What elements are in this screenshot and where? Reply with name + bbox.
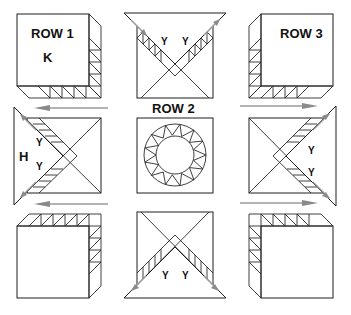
- label-h: H: [19, 149, 28, 164]
- row-1-label: ROW 1: [31, 26, 74, 41]
- quilt-assembly-diagram: ROW 1 K Y Y: [0, 0, 351, 315]
- block-bottom-center: Y Y: [124, 212, 226, 298]
- block-middle-right: Y Y: [249, 106, 336, 206]
- block-top-center: Y Y: [124, 13, 226, 98]
- label-y: Y: [161, 36, 168, 47]
- block-middle-left: Y H Y: [14, 107, 101, 205]
- block-bottom-left: [17, 214, 101, 298]
- block-center-ring: [137, 118, 213, 193]
- label-k: K: [43, 50, 53, 65]
- label-y: Y: [182, 270, 189, 281]
- block-top-left: ROW 1 K: [17, 14, 101, 98]
- label-y: Y: [162, 270, 169, 281]
- label-y: Y: [308, 167, 315, 178]
- label-y: Y: [36, 137, 43, 148]
- block-top-right: ROW 3: [249, 14, 333, 98]
- label-y: Y: [182, 36, 189, 47]
- row-2-label: ROW 2: [152, 101, 195, 116]
- block-bottom-right: [249, 214, 333, 298]
- label-y: Y: [308, 145, 315, 156]
- row-3-label: ROW 3: [280, 26, 323, 41]
- label-y: Y: [36, 161, 43, 172]
- arrows-lower: [34, 200, 318, 207]
